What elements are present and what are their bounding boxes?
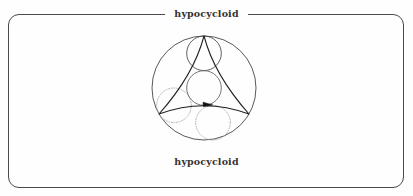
generator-circle: [187, 71, 222, 106]
fixed-circle: [152, 36, 256, 140]
figure-caption: hypocycloid: [0, 156, 413, 167]
hypocycloid-figure: [0, 18, 413, 148]
bottom-rolling-circle: [196, 105, 231, 140]
top-rolling-circle: [187, 36, 222, 71]
left-rolling-circle: [157, 88, 192, 123]
figure-panel: hypocycloid hypocycloid: [0, 0, 413, 196]
hypocycloid-svg: [0, 18, 413, 148]
